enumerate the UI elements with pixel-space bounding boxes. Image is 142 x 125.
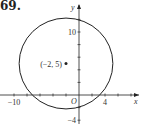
origin-label: O	[71, 97, 77, 106]
y-axis-arrow-icon	[77, 4, 81, 9]
circle-graph: −10410−4xyO(−2, 5)	[0, 0, 142, 125]
y-tick-label: 10	[68, 28, 76, 37]
x-tick-label: 4	[103, 98, 107, 107]
y-tick-label: −4	[67, 116, 76, 125]
y-axis-label: y	[70, 3, 75, 12]
center-point	[65, 62, 68, 65]
x-axis-label: x	[133, 97, 138, 106]
x-tick-label: −10	[8, 98, 21, 107]
center-point-label: (−2, 5)	[40, 60, 62, 69]
